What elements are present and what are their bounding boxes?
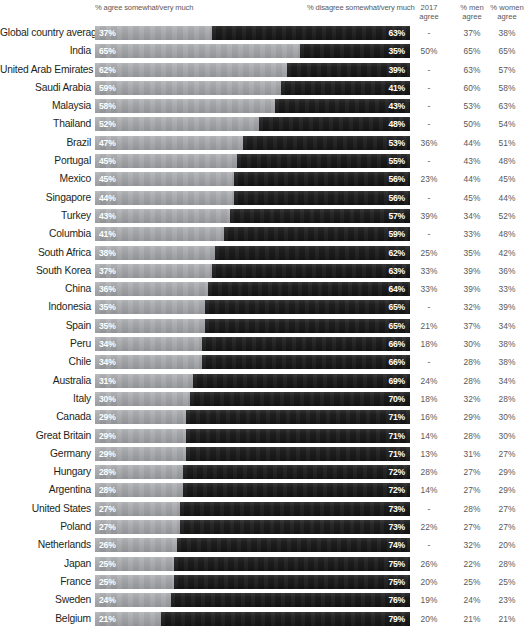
cell-women-agree: 48%	[488, 155, 526, 167]
cell-men-agree: 60%	[452, 82, 492, 94]
country-label: Canada	[0, 410, 91, 424]
bar-segment-disagree: 66%	[202, 355, 410, 369]
cell-2017-agree: 33%	[410, 283, 448, 295]
stacked-bar: 65%35%	[95, 44, 410, 58]
bar-value-disagree: 64%	[388, 283, 405, 295]
bar-segment-disagree: 41%	[281, 81, 410, 95]
chart-row: Japan25%75%26%22%28%	[0, 556, 526, 574]
bar-value-agree: 29%	[99, 411, 116, 423]
bar-segment-agree: 28%	[95, 465, 183, 479]
cell-2017-agree: 25%	[410, 247, 448, 259]
bar-segment-disagree: 75%	[174, 575, 410, 589]
bar-segment-agree: 52%	[95, 117, 259, 131]
cell-women-agree: 54%	[488, 118, 526, 130]
cell-women-agree: 42%	[488, 247, 526, 259]
bar-value-disagree: 76%	[388, 594, 405, 606]
cell-women-agree: 38%	[488, 356, 526, 368]
chart-header: % agree somewhat/very much % disagree so…	[0, 0, 526, 25]
cell-men-agree: 43%	[452, 155, 492, 167]
cell-men-agree: 37%	[452, 320, 492, 332]
cell-men-agree: 63%	[452, 64, 492, 76]
bar-value-disagree: 66%	[388, 356, 405, 368]
cell-men-agree: 27%	[452, 484, 492, 496]
bar-segment-disagree: 76%	[171, 593, 410, 607]
stacked-bar: 44%56%	[95, 191, 410, 205]
cell-2017-agree: 23%	[410, 173, 448, 185]
country-label: Mexico	[0, 172, 91, 186]
cell-men-agree: 33%	[452, 228, 492, 240]
chart-row: Spain35%65%21%37%34%	[0, 318, 526, 336]
bar-segment-agree: 37%	[95, 26, 212, 40]
cell-2017-agree: 24%	[410, 375, 448, 387]
chart-row: South Korea37%63%33%39%36%	[0, 263, 526, 281]
bar-segment-disagree: 73%	[180, 520, 410, 534]
column-header-2017-agree: 2017 agree	[410, 3, 448, 21]
bar-segment-agree: 29%	[95, 447, 186, 461]
bar-segment-agree: 59%	[95, 81, 281, 95]
cell-men-agree: 50%	[452, 118, 492, 130]
cell-women-agree: 25%	[488, 576, 526, 588]
cell-men-agree: 34%	[452, 210, 492, 222]
cell-2017-agree: -	[410, 356, 448, 368]
cell-2017-agree: -	[410, 100, 448, 112]
bar-segment-disagree: 55%	[237, 154, 410, 168]
country-label: Argentina	[0, 483, 91, 497]
bar-segment-agree: 38%	[95, 246, 215, 260]
country-label: Great Britain	[0, 429, 91, 443]
bar-value-disagree: 63%	[388, 265, 405, 277]
country-label: South Africa	[0, 246, 91, 260]
cell-2017-agree: 20%	[410, 576, 448, 588]
bar-value-agree: 35%	[99, 320, 116, 332]
chart-row: Hungary28%72%28%27%29%	[0, 464, 526, 482]
chart-row: France25%75%20%25%25%	[0, 574, 526, 592]
cell-women-agree: 58%	[488, 82, 526, 94]
chart-row: Singapore44%56%-45%44%	[0, 190, 526, 208]
bar-value-agree: 25%	[99, 576, 116, 588]
cell-2017-agree: -	[410, 539, 448, 551]
chart-row: Germany29%71%13%31%27%	[0, 446, 526, 464]
bar-value-disagree: 70%	[388, 393, 405, 405]
bar-value-agree: 62%	[99, 64, 116, 76]
chart-row: Canada29%71%16%29%30%	[0, 409, 526, 427]
stacked-bar: 26%74%	[95, 538, 410, 552]
country-label: Brazil	[0, 136, 91, 150]
stacked-bar: 38%62%	[95, 246, 410, 260]
bar-segment-agree: 21%	[95, 612, 161, 626]
country-label: Turkey	[0, 209, 91, 223]
cell-men-agree: 24%	[452, 594, 492, 606]
bar-segment-disagree: 48%	[259, 117, 410, 131]
country-label: Chile	[0, 355, 91, 369]
stacked-bar: 47%53%	[95, 136, 410, 150]
stacked-bar: 41%59%	[95, 227, 410, 241]
cell-2017-agree: 22%	[410, 521, 448, 533]
bar-value-agree: 58%	[99, 100, 116, 112]
cell-women-agree: 21%	[488, 613, 526, 625]
cell-2017-agree: 39%	[410, 210, 448, 222]
bar-value-disagree: 43%	[388, 100, 405, 112]
cell-women-agree: 28%	[488, 393, 526, 405]
chart-row: India65%35%50%65%65%	[0, 43, 526, 61]
bar-segment-disagree: 79%	[161, 612, 410, 626]
country-label: Japan	[0, 557, 91, 571]
bar-value-agree: 34%	[99, 356, 116, 368]
cell-men-agree: 25%	[452, 576, 492, 588]
cell-men-agree: 39%	[452, 283, 492, 295]
country-label: Germany	[0, 447, 91, 461]
bar-segment-disagree: 72%	[183, 465, 410, 479]
country-label: Belgium	[0, 612, 91, 626]
bar-value-disagree: 73%	[388, 521, 405, 533]
bar-segment-agree: 27%	[95, 520, 180, 534]
country-label: Global country average	[0, 26, 91, 40]
bar-value-agree: 28%	[99, 466, 116, 478]
bar-value-agree: 28%	[99, 484, 116, 496]
cell-women-agree: 39%	[488, 301, 526, 313]
bar-segment-disagree: 65%	[205, 300, 410, 314]
bar-segment-disagree: 53%	[243, 136, 410, 150]
cell-women-agree: 57%	[488, 64, 526, 76]
bar-segment-agree: 24%	[95, 593, 171, 607]
chart-row: South Africa38%62%25%35%42%	[0, 245, 526, 263]
bar-segment-agree: 65%	[95, 44, 300, 58]
legend-disagree-label: % disagree somewhat/very much	[307, 3, 415, 12]
chart-row: Saudi Arabia59%41%-60%58%	[0, 80, 526, 98]
stacked-bar: 21%79%	[95, 612, 410, 626]
